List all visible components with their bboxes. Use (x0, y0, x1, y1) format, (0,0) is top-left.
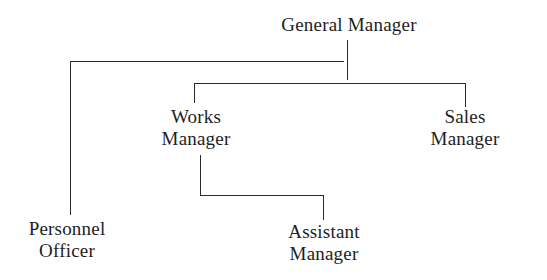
connector-sales-vertical (465, 84, 466, 107)
node-personnel-officer: Personnel Officer (29, 218, 106, 262)
node-sales-manager-line2: Manager (431, 128, 500, 150)
connector-works-vertical (194, 83, 195, 103)
connector-gm-to-personnel-horizontal (70, 61, 344, 62)
node-general-manager-label: General Manager (281, 14, 416, 36)
node-assistant-manager: Assistant Manager (288, 221, 359, 265)
connector-works-sales-horizontal (194, 83, 466, 84)
node-works-manager-line2: Manager (162, 128, 231, 150)
node-assistant-manager-line2: Manager (288, 243, 359, 265)
connector-gm-down (347, 40, 348, 80)
connector-assistant-vertical (323, 196, 324, 220)
node-general-manager: General Manager (281, 14, 416, 36)
node-personnel-officer-line2: Officer (29, 240, 106, 262)
org-chart: General Manager Works Manager Sales Mana… (0, 0, 547, 280)
node-sales-manager: Sales Manager (431, 106, 500, 150)
node-assistant-manager-line1: Assistant (288, 221, 359, 243)
connector-personnel-vertical (70, 61, 71, 215)
connector-works-down (200, 155, 201, 195)
connector-assistant-horizontal (200, 195, 324, 196)
node-works-manager: Works Manager (162, 106, 231, 150)
node-sales-manager-line1: Sales (431, 106, 500, 128)
node-personnel-officer-line1: Personnel (29, 218, 106, 240)
node-works-manager-line1: Works (162, 106, 231, 128)
